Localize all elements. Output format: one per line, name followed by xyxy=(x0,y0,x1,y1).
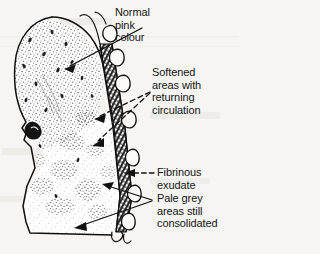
label-normal-pink-colour: Normal pink colour xyxy=(115,6,150,44)
label-softened-areas: Softened areas with returning circulatio… xyxy=(152,66,201,116)
label-pale-grey-consolidated: Pale grey areas still consolidated xyxy=(157,192,218,230)
label-fibrinous-exudate: Fibrinous exudate xyxy=(157,166,201,191)
